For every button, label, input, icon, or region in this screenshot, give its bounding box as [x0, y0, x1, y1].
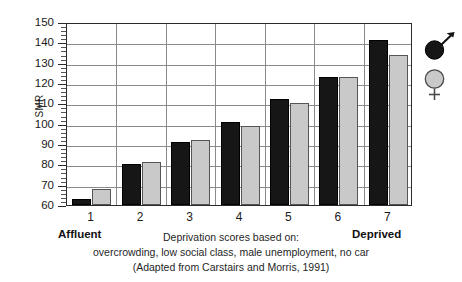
bars-layer: [67, 24, 411, 205]
y-major-tick: [58, 43, 66, 44]
y-major-tick: [58, 206, 66, 207]
legend-item-male: [418, 28, 460, 66]
y-tick-label: 150: [26, 17, 54, 29]
y-major-tick: [58, 104, 66, 105]
bar-female-4: [241, 126, 260, 205]
venus-symbol-icon: [418, 66, 460, 104]
bar-male-4: [221, 122, 240, 205]
y-tick-label: 90: [26, 139, 54, 151]
y-tick-label: 60: [26, 200, 54, 212]
y-tick-label: 70: [26, 180, 54, 192]
x-tick-label-1: 1: [71, 210, 111, 224]
bar-male-6: [319, 77, 338, 205]
bar-male-5: [270, 99, 289, 205]
bar-female-5: [290, 103, 309, 205]
bar-female-2: [142, 162, 161, 205]
bar-male-2: [122, 164, 141, 205]
bar-female-1: [92, 189, 111, 205]
y-tick-label: 120: [26, 78, 54, 90]
y-tick-label: 140: [26, 37, 54, 49]
bar-female-6: [339, 77, 358, 205]
bar-female-7: [389, 55, 408, 205]
chart-caption: Deprivation scores based on: overcrowdin…: [0, 230, 462, 275]
y-tick-label: 80: [26, 159, 54, 171]
y-major-tick: [58, 23, 66, 24]
mars-symbol-icon: [418, 28, 460, 66]
x-tick-label-6: 6: [318, 210, 358, 224]
caption-line-2: overcrowding, low social class, male une…: [0, 245, 462, 260]
plot-area: [66, 23, 412, 206]
y-tick-label: 100: [26, 119, 54, 131]
caption-line-3: (Adapted from Carstairs and Morris, 1991…: [0, 260, 462, 275]
bar-male-7: [369, 40, 388, 205]
x-tick-label-3: 3: [170, 210, 210, 224]
y-tick-label: 130: [26, 58, 54, 70]
x-tick-label-5: 5: [268, 210, 308, 224]
y-major-tick: [58, 145, 66, 146]
y-major-tick: [58, 186, 66, 187]
bar-male-1: [72, 199, 91, 205]
legend: [418, 28, 460, 108]
bar-male-3: [171, 142, 190, 205]
bar-female-3: [191, 140, 210, 205]
y-major-tick: [58, 125, 66, 126]
x-tick-label-2: 2: [120, 210, 160, 224]
chart-figure: SMR 60708090100110120130140150 1234567 A…: [0, 0, 462, 282]
y-tick-label: 110: [26, 98, 54, 110]
legend-item-female: [418, 66, 460, 104]
y-major-tick: [58, 84, 66, 85]
x-tick-label-7: 7: [367, 210, 407, 224]
y-major-tick: [58, 165, 66, 166]
x-tick-label-4: 4: [219, 210, 259, 224]
y-major-tick: [58, 64, 66, 65]
caption-line-1: Deprivation scores based on:: [0, 230, 462, 245]
